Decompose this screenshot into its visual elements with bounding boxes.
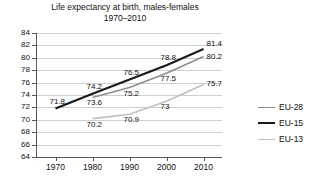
y-tick-mark: [32, 33, 37, 34]
y-tick-label: 84: [6, 29, 30, 37]
y-tick-label: 68: [6, 128, 30, 136]
y-tick-mark: [32, 120, 37, 121]
legend-item-eu-13[interactable]: EU-13: [258, 131, 326, 147]
data-label: 70.9: [124, 116, 140, 124]
x-tick-label: 1980: [73, 163, 113, 172]
legend-swatch-icon: [258, 139, 275, 140]
data-label: 77.5: [161, 75, 177, 83]
chart-container: Life expectancy at birth, males-females …: [0, 0, 326, 184]
legend-label: EU-13: [279, 135, 303, 144]
y-tick-mark: [32, 45, 37, 46]
x-tick-label: 1970: [36, 163, 76, 172]
gridline: [37, 132, 222, 133]
chart-legend: EU-28EU-15EU-13: [258, 99, 326, 147]
legend-label: EU-15: [279, 119, 303, 128]
y-tick-mark: [32, 132, 37, 133]
data-label: 81.4: [207, 40, 223, 48]
x-tick-label: 2010: [184, 163, 224, 172]
gridline: [37, 45, 222, 46]
data-label: 71.8: [50, 98, 66, 106]
y-tick-mark: [32, 145, 37, 146]
y-tick-label: 74: [6, 91, 30, 99]
data-label: 80.2: [207, 53, 223, 61]
gridline: [37, 83, 222, 84]
data-label: 73: [161, 103, 170, 111]
x-tick-mark: [56, 157, 57, 161]
x-tick-mark: [93, 157, 94, 161]
legend-swatch-icon: [258, 107, 275, 108]
legend-item-eu-15[interactable]: EU-15: [258, 115, 326, 131]
chart-title: Life expectancy at birth, males-females …: [0, 2, 250, 23]
y-tick-mark: [32, 157, 37, 158]
data-label: 70.2: [87, 121, 103, 129]
y-tick-label: 66: [6, 141, 30, 149]
data-label: 78.8: [161, 54, 177, 62]
y-tick-label: 80: [6, 54, 30, 62]
y-tick-label: 72: [6, 103, 30, 111]
legend-swatch-icon: [258, 122, 275, 124]
y-tick-label: 64: [6, 153, 30, 161]
y-tick-mark: [32, 107, 37, 108]
y-tick-mark: [32, 70, 37, 71]
y-tick-label: 82: [6, 41, 30, 49]
gridline: [37, 145, 222, 146]
data-label: 75.2: [124, 90, 140, 98]
data-label: 76.5: [124, 69, 140, 77]
legend-item-eu-28[interactable]: EU-28: [258, 99, 326, 115]
x-tick-mark: [130, 157, 131, 161]
y-tick-label: 70: [6, 116, 30, 124]
data-label: 73.6: [87, 99, 103, 107]
y-tick-mark: [32, 95, 37, 96]
chart-title-line2: 1970–2010: [0, 13, 250, 24]
chart-title-line1: Life expectancy at birth, males-females: [0, 2, 250, 13]
y-tick-label: 76: [6, 79, 30, 87]
y-tick-mark: [32, 83, 37, 84]
x-tick-mark: [167, 157, 168, 161]
y-tick-mark: [32, 58, 37, 59]
gridline: [37, 58, 222, 59]
data-label: 75.7: [207, 80, 223, 88]
x-tick-mark: [204, 157, 205, 161]
x-tick-label: 2000: [147, 163, 187, 172]
y-tick-label: 78: [6, 66, 30, 74]
legend-label: EU-28: [279, 103, 303, 112]
x-tick-label: 1990: [110, 163, 150, 172]
gridline: [37, 33, 222, 34]
gridline: [37, 107, 222, 108]
data-label: 74.2: [87, 83, 103, 91]
